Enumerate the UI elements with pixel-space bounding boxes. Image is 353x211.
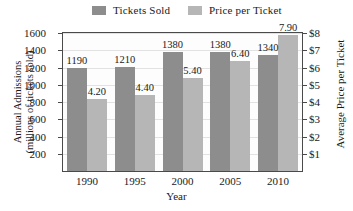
y-axis-tick-left [58,154,63,155]
y-axis-tick-label-left: 200 [30,148,47,160]
y-axis-tick-label-left: 800 [30,96,47,108]
bar-value-label: 6.40 [231,48,249,59]
bar-tickets-sold-1990 [67,68,87,171]
x-axis-tick-label: 2010 [267,175,289,187]
legend-label-tickets-sold: Tickets Sold [113,4,170,16]
legend-swatch-tickets-sold [92,6,106,15]
y-axis-tick-label-right: $1 [309,148,320,160]
y-axis-tick-right [302,85,307,86]
y-axis-title-left-line1: Annual Admissions [12,32,24,172]
y-axis-tick-label-left: 1000 [24,79,46,91]
bar-value-label: 1380 [162,39,183,50]
y-axis-tick-label-left: 400 [30,131,47,143]
y-axis-tick-right [302,50,307,51]
y-axis-tick-left [58,33,63,34]
bar-value-label: 4.20 [88,86,106,97]
y-axis-tick-label-left: 1400 [24,44,46,56]
bar-price-per-ticket-1990 [87,99,107,171]
y-axis-title-right: Average Price per Ticket [334,24,346,164]
x-axis-tick-label: 1990 [76,175,98,187]
y-axis-tick-label-left: 600 [30,113,47,125]
x-axis-tick-label: 2000 [172,175,194,187]
bar-tickets-sold-2000 [163,52,183,171]
bar-value-label: 1190 [67,55,88,66]
bar-value-label: 1210 [114,54,135,65]
y-axis-tick-label-right: $7 [309,44,320,56]
y-axis-tick-label-left: 1600 [24,27,46,39]
bar-price-per-ticket-2005 [230,61,250,171]
y-axis-tick-label-right: $4 [309,96,320,108]
bar-price-per-ticket-2000 [183,78,203,171]
y-axis-tick-right [302,154,307,155]
bar-price-per-ticket-2010 [278,35,298,171]
legend-swatch-price-per-ticket [188,6,202,15]
y-axis-tick-right [302,33,307,34]
y-axis-tick-left [58,50,63,51]
bar-tickets-sold-2005 [210,52,230,171]
y-axis-tick-left [58,85,63,86]
gridline [63,33,302,34]
y-axis-tick-right [302,102,307,103]
y-axis-tick-left [58,102,63,103]
chart-legend: Tickets Sold Price per Ticket [0,1,353,18]
legend-entry-tickets-sold: Tickets Sold [92,3,170,17]
bar-value-label: 5.40 [183,65,201,76]
y-axis-tick-right [302,137,307,138]
y-axis-tick-left [58,119,63,120]
legend-entry-price-per-ticket: Price per Ticket [188,3,282,17]
y-axis-tick-label-left: 1200 [24,62,46,74]
bar-value-label: 1340 [258,42,279,53]
y-axis-tick-left [58,68,63,69]
y-axis-tick-label-right: $5 [309,79,320,91]
y-axis-tick-label-right: $3 [309,113,320,125]
y-axis-tick-label-right: $8 [309,27,320,39]
bar-tickets-sold-2010 [258,55,278,171]
bar-value-label: 4.40 [136,82,154,93]
y-axis-tick-label-right: $2 [309,131,320,143]
x-axis-tick-label: 2005 [219,175,241,187]
bar-value-label: 7.90 [279,22,297,33]
y-axis-tick-left [58,137,63,138]
bar-chart: Tickets Sold Price per Ticket Annual Adm… [0,0,353,211]
y-axis-tick-label-right: $6 [309,62,320,74]
y-axis-tick-right [302,119,307,120]
bar-value-label: 1380 [210,39,231,50]
y-axis-tick-right [302,68,307,69]
x-axis-title: Year [0,190,353,202]
legend-label-price-per-ticket: Price per Ticket [209,4,282,16]
x-axis-tick-label: 1995 [124,175,146,187]
bar-price-per-ticket-1995 [135,95,155,171]
bar-tickets-sold-1995 [115,67,135,171]
